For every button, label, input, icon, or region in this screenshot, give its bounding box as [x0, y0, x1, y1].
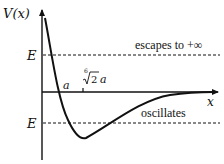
potential-energy-diagram: V(x) x E E escapes to +∞ oscillates a 6 …: [0, 0, 224, 164]
energy-label-lower: E: [26, 116, 37, 131]
potential-curve: [45, 18, 214, 138]
root-index: 6: [84, 67, 88, 74]
x-mark-a: a: [63, 79, 70, 92]
radicand: 2: [91, 74, 97, 85]
y-axis-label: V(x): [3, 6, 30, 21]
x-mark-sixth-root-2a: 6 2 a: [83, 67, 107, 86]
x-axis-label: x: [207, 95, 214, 109]
root-suffix: a: [100, 73, 107, 86]
annotation-oscillates: oscillates: [141, 106, 186, 120]
energy-label-upper: E: [26, 48, 37, 63]
annotation-escapes: escapes to +∞: [135, 38, 202, 52]
